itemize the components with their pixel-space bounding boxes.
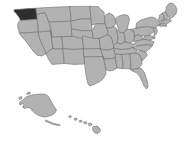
- alaska-inset-group: [19, 92, 60, 126]
- state-alaska[interactable]: [19, 92, 57, 117]
- state-new-mexico[interactable]: [63, 49, 85, 65]
- state-washington[interactable]: [14, 8, 37, 20]
- state-new-jersey[interactable]: [154, 28, 158, 36]
- state-texas[interactable]: [84, 56, 106, 86]
- hawaii-inset-group: [69, 115, 101, 133]
- state-minnesota[interactable]: [90, 6, 105, 25]
- us-map-svg: [0, 0, 184, 141]
- state-alabama[interactable]: [122, 54, 131, 69]
- state-wyoming[interactable]: [50, 21, 72, 37]
- alaska-aleutian-islands: [45, 120, 60, 126]
- contiguous-states-group: [14, 3, 177, 89]
- us-map-figure: [0, 0, 184, 141]
- state-oregon[interactable]: [18, 19, 39, 33]
- state-hawaii[interactable]: [69, 115, 101, 133]
- state-florida[interactable]: [130, 68, 148, 89]
- state-pennsylvania[interactable]: [131, 27, 154, 37]
- state-wisconsin[interactable]: [105, 13, 116, 28]
- state-south-dakota[interactable]: [71, 19, 92, 31]
- state-rhode-island[interactable]: [165, 25, 167, 27]
- state-new-york[interactable]: [136, 17, 161, 28]
- state-oklahoma[interactable]: [84, 49, 103, 57]
